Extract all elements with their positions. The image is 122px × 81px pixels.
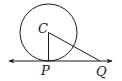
segment-cq (49, 33, 101, 62)
point-label-p: P (40, 63, 50, 78)
point-label-q: Q (96, 64, 107, 79)
geometry-diagram: C P Q (0, 0, 122, 81)
point-label-c: C (38, 21, 48, 36)
